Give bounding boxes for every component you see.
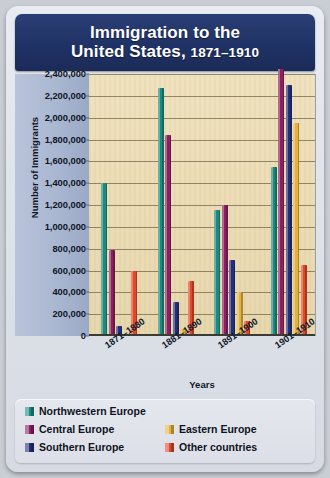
legend-label: Eastern Europe bbox=[179, 423, 257, 435]
y-tick-label: 400,000 bbox=[52, 287, 86, 297]
y-tick-label: 2,000,000 bbox=[45, 113, 86, 123]
legend-swatch-icon bbox=[25, 443, 34, 452]
bar-central-europe-1871–1880 bbox=[109, 250, 115, 336]
bar-southern-europe-1891–1900 bbox=[229, 260, 235, 336]
y-tick-label: 1,200,000 bbox=[45, 200, 86, 210]
bar-southern-europe-1901–1910 bbox=[286, 85, 292, 336]
legend-label: Northwestern Europe bbox=[39, 405, 146, 417]
bar-northwestern-europe-1871–1880 bbox=[101, 183, 107, 336]
legend-label: Central Europe bbox=[39, 423, 114, 435]
title-line-2: United States, bbox=[71, 42, 191, 61]
title-line-1: Immigration to the bbox=[90, 23, 240, 42]
y-tick-label: 200,000 bbox=[52, 309, 86, 319]
y-tick-label: 2,200,000 bbox=[45, 91, 86, 101]
bar-central-europe-1891–1900 bbox=[222, 205, 228, 336]
legend-item-southern-europe: Southern Europe bbox=[25, 441, 124, 453]
chart-legend: Northwestern EuropeCentral EuropeSouther… bbox=[15, 399, 315, 463]
legend-label: Other countries bbox=[179, 441, 257, 453]
legend-swatch-icon bbox=[165, 443, 174, 452]
y-tick-label: 1,400,000 bbox=[45, 178, 86, 188]
legend-item-central-europe: Central Europe bbox=[25, 423, 114, 435]
y-tick-label: 1,800,000 bbox=[45, 135, 86, 145]
y-tick-label: 800,000 bbox=[52, 244, 86, 254]
bar-central-europe-1881–1890 bbox=[165, 135, 171, 336]
chart-title-bar: Immigration to the United States, 1871–1… bbox=[15, 14, 315, 71]
bar-northwestern-europe-1881–1890 bbox=[158, 88, 164, 336]
x-axis-title: Years bbox=[89, 379, 315, 390]
legend-swatch-icon bbox=[165, 425, 174, 434]
bar-eastern-europe-1901–1910 bbox=[293, 123, 299, 336]
y-tick-label: 1,600,000 bbox=[45, 156, 86, 166]
legend-label: Southern Europe bbox=[39, 441, 124, 453]
y-tick-label: 600,000 bbox=[52, 266, 86, 276]
legend-swatch-icon bbox=[25, 425, 34, 434]
legend-swatch-icon bbox=[25, 407, 34, 416]
title-years: 1871–1910 bbox=[191, 45, 259, 60]
y-tick-label: 2,400,000 bbox=[45, 69, 86, 79]
y-axis-panel: Number of Immigrants 2,400,0002,200,0002… bbox=[15, 74, 89, 336]
bar-northwestern-europe-1901–1910 bbox=[271, 167, 277, 336]
page-title: Immigration to the United States, 1871–1… bbox=[65, 23, 265, 62]
x-axis: 1871–18801881–18901891–19001901–1910 Yea… bbox=[15, 336, 315, 392]
bar-central-europe-1901–1910 bbox=[278, 69, 284, 336]
plot-area bbox=[89, 74, 316, 336]
y-tick-label: 1,000,000 bbox=[45, 222, 86, 232]
legend-item-other-countries: Other countries bbox=[165, 441, 257, 453]
legend-item-eastern-europe: Eastern Europe bbox=[165, 423, 257, 435]
bar-northwestern-europe-1891–1900 bbox=[214, 210, 220, 336]
y-axis-title: Number of Immigrants bbox=[29, 108, 40, 228]
chart-card: Immigration to the United States, 1871–1… bbox=[6, 6, 324, 472]
chart-plot-region: Number of Immigrants 2,400,0002,200,0002… bbox=[15, 74, 315, 336]
legend-item-northwestern-europe: Northwestern Europe bbox=[25, 405, 146, 417]
